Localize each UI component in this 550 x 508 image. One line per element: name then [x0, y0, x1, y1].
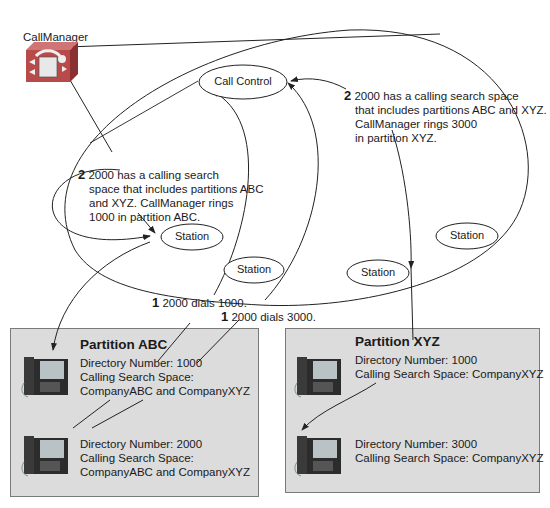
- partition-xyz-title: Partition XYZ: [355, 334, 440, 349]
- step-number: 2: [344, 88, 351, 103]
- station-node-4: Station: [437, 229, 497, 241]
- station-node-1: Station: [162, 230, 222, 242]
- station-node-2: Station: [224, 263, 284, 275]
- step1-dial-3000: 1 2000 dials 3000.: [221, 310, 316, 324]
- station-node-3: Station: [348, 266, 408, 278]
- step-number: 2: [78, 167, 85, 182]
- phone-xyz-3000-info: Directory Number: 3000 Calling Search Sp…: [355, 437, 544, 465]
- step1-dial-1000: 1 2000 dials 1000.: [152, 296, 247, 310]
- ip-phone-icon: [293, 432, 343, 478]
- phone-abc-1000-info: Directory Number: 1000 Calling Search Sp…: [80, 356, 250, 398]
- ip-phone-icon: [20, 432, 70, 478]
- callmanager-server-icon: [22, 42, 80, 84]
- phone-xyz-1000-info: Directory Number: 1000 Calling Search Sp…: [355, 353, 544, 381]
- phone-abc-2000-info: Directory Number: 2000 Calling Search Sp…: [80, 437, 250, 479]
- step2-right-annotation: 2 2000 has a calling search space that i…: [344, 89, 547, 145]
- step2-left-annotation: 2 2000 has a calling search space that i…: [78, 168, 264, 224]
- partition-abc-title: Partition ABC: [80, 337, 167, 352]
- ip-phone-icon: [20, 353, 70, 399]
- call-control-node: Call Control: [205, 75, 281, 87]
- ip-phone-icon: [293, 353, 343, 399]
